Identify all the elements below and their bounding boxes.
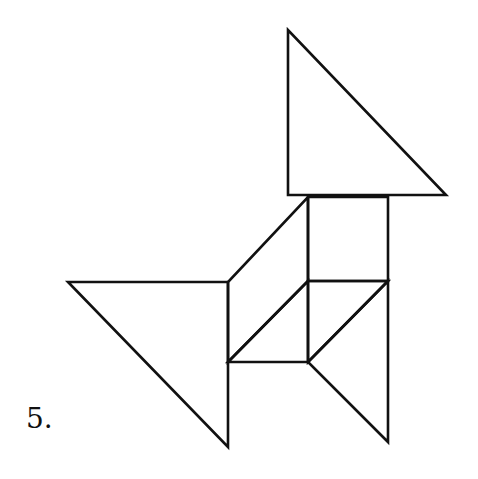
parallelogram-piece bbox=[228, 197, 308, 362]
small-triangle-middle-left bbox=[228, 281, 308, 362]
tangram-svg bbox=[0, 0, 478, 479]
medium-triangle-bottom-right bbox=[308, 281, 388, 442]
large-triangle-top bbox=[288, 30, 446, 195]
large-triangle-left bbox=[68, 282, 228, 447]
figure-number-label: 5. bbox=[26, 405, 53, 433]
square-piece bbox=[308, 197, 388, 281]
